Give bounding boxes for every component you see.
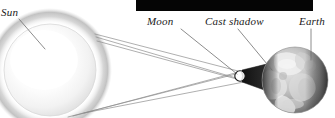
earth-group <box>258 47 331 115</box>
earth-surface-texture <box>258 47 331 115</box>
leader-moon <box>181 29 237 74</box>
label-cast-shadow: Cast shadow <box>205 16 264 27</box>
label-earth: Earth <box>299 16 325 27</box>
sun-inner-shading <box>10 30 78 90</box>
label-sun: Sun <box>1 7 18 18</box>
sun-group <box>0 8 112 118</box>
eclipse-diagram: Sun Moon Cast shadow Earth <box>0 0 335 118</box>
ray-upper-cross <box>96 37 243 80</box>
ray-upper-direct <box>95 34 238 71</box>
label-moon: Moon <box>147 16 173 27</box>
leader-cast-shadow <box>238 29 272 70</box>
black-header-bar <box>136 0 313 11</box>
ray-upper-cross-b <box>97 41 244 81</box>
moon-group <box>235 71 245 81</box>
